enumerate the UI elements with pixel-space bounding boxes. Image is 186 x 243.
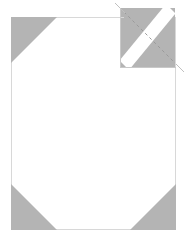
figure-canvas <box>0 0 186 243</box>
fold-tick-bottom <box>175 63 184 72</box>
page-fold-diagram <box>0 0 186 243</box>
